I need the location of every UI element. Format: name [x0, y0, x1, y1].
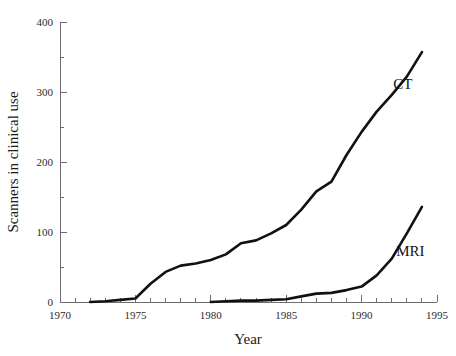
x-tick-label: 1980 [200, 309, 223, 321]
x-tick-label: 1990 [351, 309, 374, 321]
x-axis-title: Year [234, 331, 262, 347]
y-tick-label: 400 [37, 16, 54, 28]
y-axis-title: Scanners in clinical use [5, 91, 21, 233]
y-tick-label: 200 [37, 156, 54, 168]
chart-background [0, 0, 456, 356]
series-label-mri: MRI [396, 243, 424, 259]
chart-figure: 1970197519801985199019950100200300400 CT… [0, 0, 456, 356]
y-tick-label: 100 [37, 226, 54, 238]
line-chart: 1970197519801985199019950100200300400 CT… [0, 0, 456, 356]
y-tick-label: 300 [37, 86, 54, 98]
x-tick-label: 1985 [275, 309, 298, 321]
x-tick-label: 1995 [426, 309, 449, 321]
x-tick-label: 1975 [124, 309, 147, 321]
series-label-ct: CT [393, 76, 412, 92]
y-tick-label: 0 [48, 296, 54, 308]
x-tick-label: 1970 [49, 309, 72, 321]
